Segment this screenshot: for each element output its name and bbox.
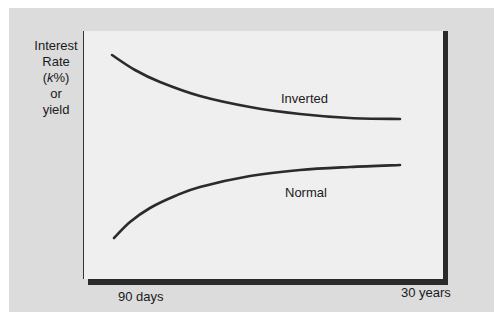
x-tick-90-days: 90 days	[118, 289, 164, 304]
normal-label: Normal	[285, 185, 327, 200]
normal-curve	[114, 165, 400, 238]
x-tick-30-years: 30 years	[401, 285, 451, 300]
inverted-label: Inverted	[281, 91, 328, 106]
inverted-curve	[112, 55, 400, 119]
yield-curves	[0, 0, 503, 323]
